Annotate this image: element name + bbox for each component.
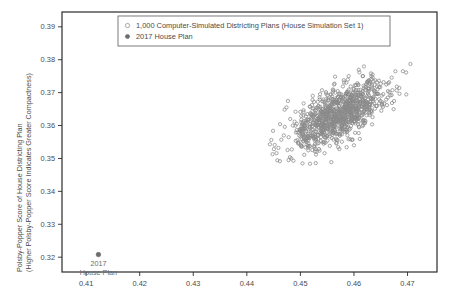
scatter-point <box>345 81 348 84</box>
scatter-point <box>294 110 297 113</box>
x-tick-label: 0.45 <box>293 279 307 288</box>
scatter-point <box>370 123 373 126</box>
annotation-line1: 2017 <box>90 259 106 268</box>
scatter-point <box>300 114 303 117</box>
scatter-point <box>282 134 285 137</box>
scatter-point <box>391 88 394 91</box>
scatter-point <box>330 160 333 163</box>
scatter-point <box>409 62 412 65</box>
scatter-point <box>286 99 289 102</box>
scatter-point <box>341 85 344 88</box>
scatter-point <box>303 153 306 156</box>
scatter-point <box>277 146 280 149</box>
scatter-point <box>283 108 286 111</box>
scatter-point <box>270 138 273 141</box>
legend-label-simulated: 1,000 Computer-Simulated Districting Pla… <box>136 21 364 30</box>
scatter-point <box>333 75 336 78</box>
scatter-point <box>323 152 326 155</box>
scatter-point <box>394 70 397 73</box>
legend: 1,000 Computer-Simulated Districting Pla… <box>118 16 390 46</box>
scatter-point <box>278 123 281 126</box>
plot-canvas: Polsby-Popper Score of House Districting… <box>0 0 453 305</box>
scatter-point <box>286 148 289 151</box>
scatter-point <box>289 117 292 120</box>
scatter-point <box>290 148 293 151</box>
scatter-point <box>404 71 407 74</box>
annotation-line2: House Plan <box>80 268 117 277</box>
scatter-point <box>311 94 314 97</box>
scatter-point <box>314 161 317 164</box>
scatter-point <box>382 81 385 84</box>
legend-label-observed: 2017 House Plan <box>136 32 193 41</box>
scatter-point <box>357 131 360 134</box>
scatter-point <box>398 92 401 95</box>
scatter-point <box>320 89 323 92</box>
scatter-point <box>392 99 395 102</box>
scatter-point <box>292 159 295 162</box>
y-tick-label: 0.38 <box>41 55 55 64</box>
y-axis-title: Polsby-Popper Score of House Districting… <box>15 73 33 272</box>
scatter-point <box>299 110 302 113</box>
x-tick-label: 0.42 <box>132 279 146 288</box>
scatter-point <box>283 125 286 128</box>
y-tick-label: 0.35 <box>41 154 55 163</box>
scatter-point <box>287 136 290 139</box>
scatter-point <box>345 146 348 149</box>
scatter-point <box>275 152 278 155</box>
scatter-point <box>308 162 311 165</box>
scatter-point <box>346 134 349 137</box>
scatter-point <box>362 65 365 68</box>
y-tick-label: 0.34 <box>41 187 55 196</box>
x-tick-label: 0.43 <box>186 279 200 288</box>
2017-house-plan-marker <box>96 252 101 257</box>
scatter-point <box>271 153 274 156</box>
y-axis-title-line2: (Higher Polsby-Popper Score Indicates Gr… <box>24 73 33 272</box>
y-tick-label: 0.37 <box>41 88 55 97</box>
y-tick-label: 0.32 <box>41 253 55 262</box>
scatter-point <box>326 139 329 142</box>
scatter-point <box>405 93 408 96</box>
scatter-point <box>346 78 349 81</box>
scatter-point <box>280 138 283 141</box>
scatter-point <box>293 120 296 123</box>
scatter-point <box>268 143 271 146</box>
y-axis-ticks: 0.320.330.340.350.360.370.380.39 <box>41 22 62 261</box>
scatter-point <box>287 158 290 161</box>
scatter-point <box>271 129 274 132</box>
y-tick-label: 0.39 <box>41 22 55 31</box>
scatter-point <box>347 74 350 77</box>
scatter-point <box>390 76 393 79</box>
scatter-point <box>302 102 305 105</box>
scatter-point <box>352 144 355 147</box>
y-tick-label: 0.33 <box>41 220 55 229</box>
scatter-point <box>349 85 352 88</box>
x-axis-ticks: 0.410.420.430.440.450.460.47 <box>79 272 415 288</box>
scatter-point <box>328 144 331 147</box>
scatter-point <box>301 162 304 165</box>
scatter-point <box>395 89 398 92</box>
legend-filled-circle-icon <box>125 34 129 38</box>
simulated-plans-scatter <box>268 62 412 165</box>
x-tick-label: 0.46 <box>347 279 361 288</box>
scatter-point <box>272 147 275 150</box>
scatter-point <box>318 93 321 96</box>
scatter-point <box>385 103 388 106</box>
x-tick-label: 0.44 <box>240 279 254 288</box>
x-tick-label: 0.41 <box>79 279 93 288</box>
scatter-point <box>380 109 383 112</box>
y-axis-title-line1: Polsby-Popper Score of House Districting… <box>15 123 24 272</box>
scatter-point <box>392 108 395 111</box>
scatter-point <box>353 131 356 134</box>
scatter-point <box>390 101 393 104</box>
scatter-point <box>340 140 343 143</box>
x-tick-label: 0.47 <box>400 279 414 288</box>
scatter-point <box>273 143 276 146</box>
scatter-point <box>285 106 288 109</box>
scatter-plot-figure: Polsby-Popper Score of House Districting… <box>0 0 453 305</box>
scatter-point <box>358 137 361 140</box>
observed-plan-group: 2017 House Plan <box>80 252 117 276</box>
plot-frame <box>62 12 437 272</box>
y-tick-label: 0.36 <box>41 121 55 130</box>
scatter-point <box>401 70 404 73</box>
